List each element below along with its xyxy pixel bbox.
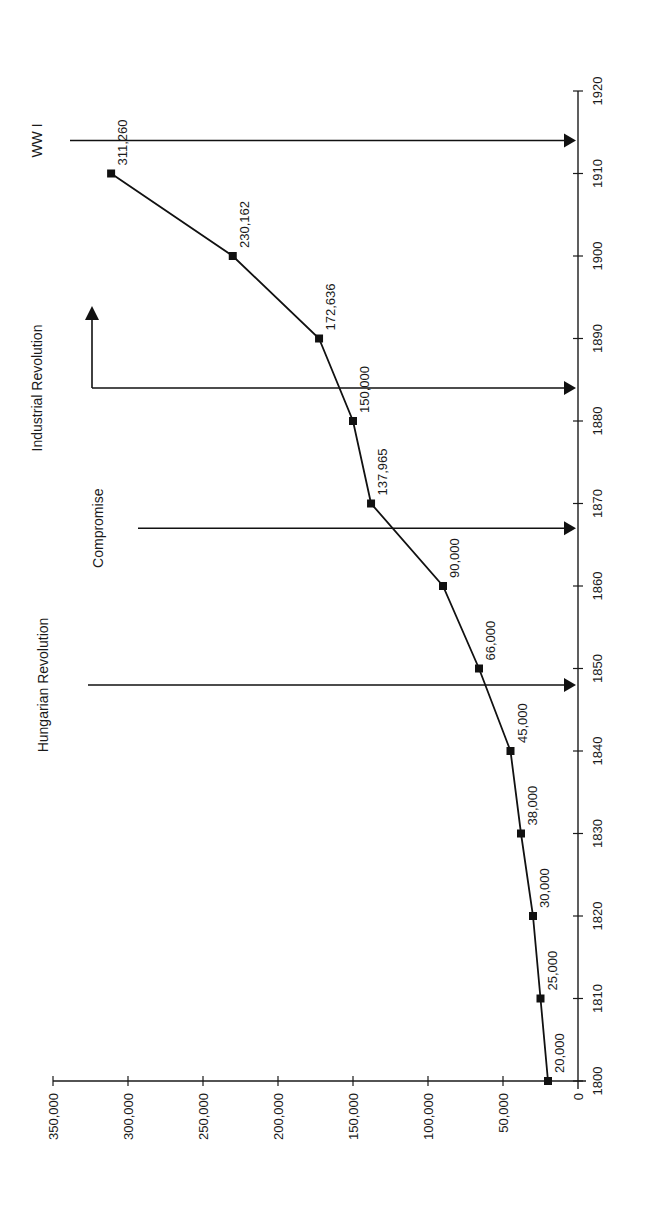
year-tick-label: 1830 [590,819,605,848]
event-label: Compromise [90,488,106,568]
arrowhead-right-icon [564,521,576,535]
year-tick-label: 1820 [590,902,605,931]
population-axis: 050,000100,000150,000200,000250,000300,0… [46,1076,586,1140]
data-point-marker [107,170,115,178]
data-point-label: 38,000 [525,786,540,826]
arrowhead-right-icon [564,381,576,395]
population-line-chart: 1800181018201830184018501860187018801890… [0,0,651,1207]
year-tick-label: 1890 [590,324,605,353]
data-point-marker [475,665,483,673]
year-tick-label: 1880 [590,407,605,436]
year-tick-label: 1810 [590,984,605,1013]
data-point-marker [507,747,515,755]
year-tick-label: 1900 [590,242,605,271]
population-tick-label: 250,000 [196,1093,211,1140]
data-point-label: 172,636 [323,284,338,331]
data-point-label: 311,260 [115,119,130,165]
data-point-label: 90,000 [447,538,462,578]
data-point-label: 30,000 [537,868,552,908]
data-point-marker [367,500,375,508]
data-point-label: 137,965 [375,449,390,496]
data-point-label: 150,000 [357,366,372,413]
data-point-marker [537,995,545,1003]
population-tick-label: 50,000 [496,1093,511,1133]
year-tick-label: 1910 [590,159,605,188]
data-point-marker [349,417,357,425]
year-tick-label: 1850 [590,654,605,683]
data-point-label: 20,000 [552,1033,567,1073]
data-point-marker [315,335,323,343]
population-tick-label: 350,000 [46,1093,61,1140]
data-point-marker [529,912,537,920]
arrowhead-right-icon [564,134,576,148]
population-tick-label: 200,000 [271,1093,286,1140]
year-tick-label: 1800 [590,1067,605,1096]
event-label: Industrial Revolution [29,325,45,452]
year-tick-label: 1840 [590,737,605,766]
year-axis: 1800181018201830184018501860187018801890… [573,77,605,1096]
data-point-label: 45,000 [515,703,530,743]
population-tick-label: 300,000 [121,1093,136,1140]
data-point-marker [544,1077,552,1085]
population-tick-label: 100,000 [421,1093,436,1140]
year-tick-label: 1870 [590,489,605,518]
data-point-label: 25,000 [545,951,560,991]
year-tick-label: 1920 [590,77,605,106]
event-label: Hungarian Revolution [35,618,51,753]
data-point-label: 230,162 [237,201,252,248]
data-point-label: 66,000 [483,621,498,661]
population-tick-label: 0 [571,1093,586,1100]
arrowhead-up-icon [85,306,99,320]
data-point-marker [517,830,525,838]
population-tick-label: 150,000 [346,1093,361,1140]
event-label: WW I [29,123,45,157]
data-point-marker [439,582,447,590]
population-series: 20,00025,00030,00038,00045,00066,00090,0… [107,119,567,1085]
data-point-marker [229,252,237,260]
year-tick-label: 1860 [590,572,605,601]
arrowhead-right-icon [564,678,576,692]
